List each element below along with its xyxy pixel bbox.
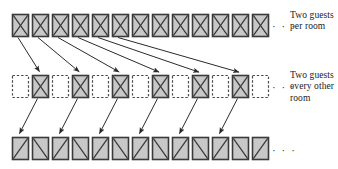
arrow-middle-to-bottom-5 bbox=[179, 99, 197, 134]
label-top-line-2: per room bbox=[290, 21, 334, 32]
room-box bbox=[13, 15, 29, 37]
label-two-guests-per-room: Two guests per room bbox=[290, 10, 334, 33]
room-box bbox=[113, 138, 129, 160]
room-box bbox=[73, 138, 89, 160]
room-box bbox=[133, 76, 149, 98]
room-box-outline-dashed bbox=[53, 76, 69, 98]
room-box bbox=[53, 15, 69, 37]
room-box-outline-dashed bbox=[93, 76, 109, 98]
room-box-outline-dashed bbox=[253, 76, 269, 98]
room-box-outline-dashed bbox=[133, 76, 149, 98]
room-box bbox=[233, 15, 249, 37]
room-box bbox=[173, 76, 189, 98]
arrow-top-to-middle-1 bbox=[18, 38, 39, 72]
room-box bbox=[153, 138, 169, 160]
room-box bbox=[193, 138, 209, 160]
room-box-outline-dashed bbox=[173, 76, 189, 98]
arrow-middle-to-bottom-2 bbox=[59, 99, 77, 134]
room-box bbox=[113, 15, 129, 37]
room-box bbox=[33, 138, 49, 160]
top-row bbox=[13, 15, 269, 37]
room-box bbox=[213, 76, 229, 98]
label-middle-line-1: Two guests bbox=[290, 70, 334, 81]
label-two-guests-every-other-room: Two guests every other room bbox=[290, 70, 334, 104]
arrow-top-to-middle-6 bbox=[118, 38, 239, 73]
room-box bbox=[173, 15, 189, 37]
boxes-layer bbox=[13, 15, 269, 160]
arrow-top-to-middle-3 bbox=[58, 38, 119, 73]
room-box bbox=[233, 76, 249, 98]
room-box bbox=[253, 138, 269, 160]
room-box bbox=[213, 138, 229, 160]
room-box bbox=[33, 15, 49, 37]
room-box bbox=[133, 15, 149, 37]
room-box-outline-dashed bbox=[13, 76, 29, 98]
room-box-outline-dashed bbox=[213, 76, 229, 98]
room-box bbox=[133, 138, 149, 160]
room-box bbox=[13, 76, 29, 98]
arrow-middle-to-bottom-4 bbox=[139, 99, 157, 134]
room-box bbox=[53, 138, 69, 160]
room-box bbox=[153, 15, 169, 37]
room-box bbox=[113, 76, 129, 98]
arrow-middle-to-bottom-3 bbox=[99, 99, 117, 134]
room-box bbox=[173, 138, 189, 160]
room-box bbox=[33, 76, 49, 98]
middle-row bbox=[13, 76, 269, 98]
room-box bbox=[53, 76, 69, 98]
room-box bbox=[13, 138, 29, 160]
room-box bbox=[193, 76, 209, 98]
room-box bbox=[93, 138, 109, 160]
label-middle-line-2: every other bbox=[290, 81, 334, 92]
room-box bbox=[73, 15, 89, 37]
room-box bbox=[253, 76, 269, 98]
label-top-line-1: Two guests bbox=[290, 10, 334, 21]
room-box bbox=[93, 76, 109, 98]
arrow-middle-to-bottom-6 bbox=[219, 99, 237, 134]
label-middle-line-3: room bbox=[290, 93, 334, 104]
arrow-middle-to-bottom-1 bbox=[19, 99, 37, 134]
arrow-top-to-middle-2 bbox=[38, 38, 79, 72]
room-box bbox=[93, 15, 109, 37]
room-box bbox=[253, 15, 269, 37]
ellipsis-bottom-row: · · · bbox=[272, 145, 297, 156]
room-box bbox=[233, 138, 249, 160]
hilbert-hotel-figure: · · · · · · · · · Two guests per room Tw… bbox=[0, 0, 338, 169]
arrow-top-to-middle-5 bbox=[98, 38, 199, 73]
room-box bbox=[73, 76, 89, 98]
room-box bbox=[153, 76, 169, 98]
room-box bbox=[193, 15, 209, 37]
bottom-row bbox=[13, 138, 269, 160]
room-box bbox=[213, 15, 229, 37]
